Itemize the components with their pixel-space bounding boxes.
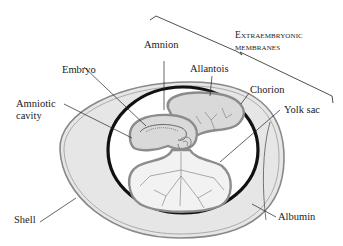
label-yolk-sac: Yolk sac [284,104,320,115]
amniotic-egg-diagram: Amnion Allantois Embryo Amniotic cavity … [0,0,343,246]
label-extraembryonic-line1: Extraembryonic [235,30,303,41]
label-albumin: Albumin [278,211,315,222]
label-shell: Shell [14,214,36,225]
label-embryo: Embryo [62,64,96,75]
label-extraembryonic-line2: membranes [235,42,280,53]
label-amnion: Amnion [144,39,178,50]
label-amniotic-cavity-line2: cavity [16,110,42,121]
label-allantois: Allantois [190,63,229,74]
label-chorion: Chorion [250,84,284,95]
label-amniotic-cavity-line1: Amniotic [16,98,56,109]
